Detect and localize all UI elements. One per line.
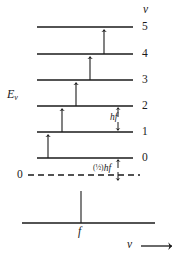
level-label-4: 4 bbox=[142, 48, 148, 60]
energy-level-lines bbox=[37, 27, 133, 158]
transition-arrows bbox=[48, 30, 104, 159]
zero-energy-label: 0 bbox=[17, 169, 23, 181]
y-axis-label-subscript-v: v bbox=[14, 93, 18, 102]
level-label-2: 2 bbox=[142, 100, 148, 112]
level-label-0: 0 bbox=[142, 152, 148, 164]
zero-point-hf: hf bbox=[104, 163, 111, 173]
hf-measure-label: hf bbox=[110, 113, 117, 123]
spectrum-axis-label-nu: ν bbox=[127, 239, 132, 251]
spectrum-panel bbox=[22, 191, 172, 246]
axis-label-v-top: v bbox=[143, 4, 148, 16]
zero-point-energy-label: (½)hf bbox=[93, 164, 111, 174]
level-label-3: 3 bbox=[142, 74, 148, 86]
spectrum-line-label-f: f bbox=[78, 226, 81, 238]
level-label-5: 5 bbox=[142, 21, 148, 33]
vibrational-energy-level-figure bbox=[0, 0, 177, 260]
level-label-1: 1 bbox=[142, 126, 148, 138]
hf-measure-label-text: hf bbox=[110, 112, 117, 122]
zero-point-fraction: (½) bbox=[93, 163, 104, 172]
y-axis-label-energy: Ev bbox=[7, 88, 18, 102]
